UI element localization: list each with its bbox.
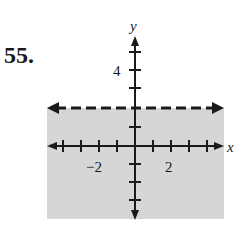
y-axis-label: y [128, 18, 137, 34]
inequality-graph: y x 4 −2 2 [0, 0, 241, 228]
x-tick-label-2: 2 [165, 159, 173, 175]
x-tick-label-neg2: −2 [86, 159, 102, 175]
y-axis-arrow-up-icon [131, 36, 139, 46]
x-axis-label: x [226, 139, 234, 155]
y-tick-label-4: 4 [113, 63, 121, 79]
